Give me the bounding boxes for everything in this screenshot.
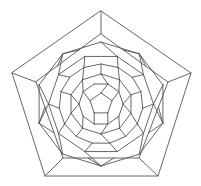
edge [49,104,59,133]
edge [132,77,141,91]
edge [119,80,120,92]
edge [59,56,85,74]
edge [131,92,141,95]
edge [85,143,92,151]
edge [101,154,139,166]
edge [141,92,143,109]
edge [120,128,126,136]
edge [71,95,79,104]
edge [49,75,59,104]
edge [119,92,123,104]
edge [12,73,36,82]
edge [59,92,61,109]
edge [83,116,94,124]
edge [79,92,83,104]
edge [82,128,101,134]
inner-cage-edges [39,42,163,166]
edge [82,80,83,92]
edge [126,124,138,136]
edge [119,116,120,128]
edge [118,67,132,77]
edge [82,67,83,79]
edge [117,133,143,151]
edge [120,80,131,95]
edge [137,124,143,133]
edge [119,104,123,116]
fullerene-schlegel-diagram [0,0,201,186]
inner-pentagon [36,34,168,158]
edge [108,101,112,113]
edge [90,93,101,101]
edge [101,134,110,143]
edge [101,158,114,166]
edge [132,75,143,78]
edge [88,158,101,166]
edge [59,133,85,151]
edge [101,93,112,101]
edge [117,56,118,67]
edge [101,84,108,93]
edge [118,67,119,79]
edge [61,77,70,91]
edge [76,136,92,143]
edge [59,124,65,133]
edge [123,104,131,113]
edge [112,92,119,101]
edge [110,136,126,143]
edge [71,104,79,113]
edge [71,80,82,95]
edge [110,143,117,151]
edge [139,158,158,176]
edge [101,64,118,67]
edge [79,104,83,116]
edge [120,113,131,128]
edge [154,85,163,104]
edge [39,123,54,133]
edge [39,107,45,123]
edge [82,116,83,128]
edge [65,124,77,136]
edge [83,92,90,101]
edge [108,116,119,124]
edge [143,104,153,133]
edge [59,75,70,78]
edge [76,128,82,136]
edge [117,56,143,74]
edge [90,101,94,113]
edge [143,75,153,104]
edge [131,113,137,124]
edge [61,92,71,95]
edge [84,64,101,67]
edge [45,158,63,176]
edge [84,56,85,67]
edge [83,84,94,92]
edge [82,74,101,80]
edge [137,108,142,124]
edge [59,108,64,124]
edge [108,84,119,92]
edge [168,73,191,82]
edge [65,113,71,124]
edge [63,154,101,166]
edge [71,113,82,128]
edge [70,67,84,77]
edge [123,95,131,104]
